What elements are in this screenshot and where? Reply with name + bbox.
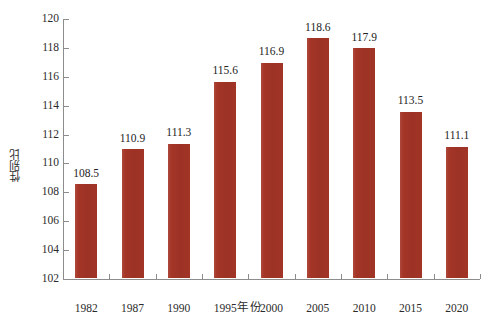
x-axis-tick bbox=[109, 274, 110, 279]
x-axis-tick bbox=[480, 274, 481, 279]
bar-group: 108.5 bbox=[75, 18, 97, 278]
x-axis-line bbox=[63, 279, 480, 280]
y-axis-tick-label: 116 bbox=[29, 71, 59, 83]
y-axis-tick bbox=[64, 19, 69, 20]
bar-value-label: 116.9 bbox=[259, 46, 284, 58]
y-axis-tick-label: 108 bbox=[29, 186, 59, 198]
bar-group: 113.5 bbox=[400, 18, 422, 278]
y-axis-tick bbox=[64, 163, 69, 164]
x-axis-tick bbox=[341, 274, 342, 279]
bar-group: 117.9 bbox=[353, 18, 375, 278]
y-axis-tick-label: 114 bbox=[29, 100, 59, 112]
bar bbox=[446, 147, 468, 278]
bar bbox=[400, 112, 422, 278]
x-axis-title: 年 份 bbox=[0, 302, 498, 314]
y-axis-tick-labels: 102104106108110112114116118120 bbox=[25, 19, 59, 280]
bar bbox=[307, 38, 329, 278]
y-axis-tick bbox=[64, 106, 69, 107]
y-axis-tick bbox=[64, 279, 69, 280]
y-axis-line bbox=[63, 19, 64, 280]
bar bbox=[168, 144, 190, 278]
y-axis-tick-label: 104 bbox=[29, 244, 59, 256]
bar bbox=[353, 48, 375, 278]
bar-group: 111.3 bbox=[168, 18, 190, 278]
y-axis-tick bbox=[64, 192, 69, 193]
x-axis-tick bbox=[156, 274, 157, 279]
y-axis-tick-label: 110 bbox=[29, 157, 59, 169]
y-axis-title: 性别比 bbox=[6, 131, 24, 201]
bar-value-label: 115.6 bbox=[212, 65, 237, 77]
y-axis-tick-label: 118 bbox=[29, 42, 59, 54]
y-axis-tick-label: 102 bbox=[29, 273, 59, 285]
bar-value-label: 113.5 bbox=[398, 95, 423, 107]
y-axis-tick bbox=[64, 48, 69, 49]
bar-value-label: 108.5 bbox=[73, 168, 99, 180]
y-axis-tick-label: 112 bbox=[29, 129, 59, 141]
x-axis-tick bbox=[295, 274, 296, 279]
bar-value-label: 118.6 bbox=[305, 22, 330, 34]
bar-value-label: 110.9 bbox=[120, 133, 145, 145]
bar bbox=[261, 63, 283, 278]
bar-group: 118.6 bbox=[307, 18, 329, 278]
x-axis-tick bbox=[202, 274, 203, 279]
bar-group: 110.9 bbox=[122, 18, 144, 278]
bar-value-label: 111.3 bbox=[166, 127, 191, 139]
y-axis-tick bbox=[64, 77, 69, 78]
bar-group: 115.6 bbox=[214, 18, 236, 278]
y-axis-tick bbox=[64, 221, 69, 222]
y-axis-tick bbox=[64, 135, 69, 136]
y-axis-tick-label: 106 bbox=[29, 215, 59, 227]
bar-group: 116.9 bbox=[261, 18, 283, 278]
y-axis-tick bbox=[64, 250, 69, 251]
bar bbox=[122, 149, 144, 278]
y-axis-tick-label: 120 bbox=[29, 13, 59, 25]
bar bbox=[75, 184, 97, 278]
bar-chart: 性别比 102104106108110112114116118120 108.5… bbox=[0, 0, 498, 327]
bar-value-label: 111.1 bbox=[444, 130, 469, 142]
x-axis-tick bbox=[248, 274, 249, 279]
plot-area: 108.5110.9111.3115.6116.9118.6117.9113.5… bbox=[63, 19, 480, 279]
bar-value-label: 117.9 bbox=[351, 32, 376, 44]
bar-group: 111.1 bbox=[446, 18, 468, 278]
x-axis-tick bbox=[387, 274, 388, 279]
x-axis-tick bbox=[434, 274, 435, 279]
bar bbox=[214, 82, 236, 278]
